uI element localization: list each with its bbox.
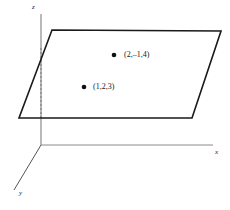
data-point-dot — [112, 53, 117, 58]
x-axis-label: x — [215, 149, 218, 156]
point-label-2-neg1-4: (2,–1,4) — [124, 51, 149, 59]
figure-svg — [0, 0, 230, 210]
z-axis-label: z — [32, 4, 35, 11]
plane-parallelogram — [19, 30, 221, 118]
point-label-1-2-3: (1,2,3) — [93, 83, 114, 91]
data-point-dot — [82, 85, 87, 90]
y-axis-label: y — [19, 190, 22, 197]
y-axis-line — [14, 145, 41, 190]
figure-canvas: z x y (2,–1,4) (1,2,3) — [0, 0, 230, 210]
